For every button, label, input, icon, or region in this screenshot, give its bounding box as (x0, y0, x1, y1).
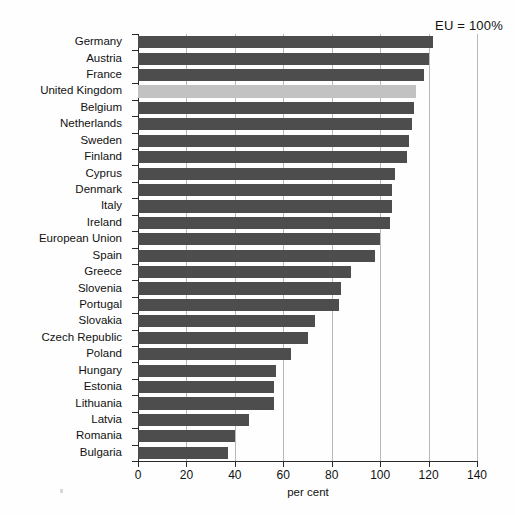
x-tick-120 (429, 462, 430, 467)
bar-row (138, 135, 477, 147)
y-label-finland: Finland (84, 151, 122, 163)
bar-row (138, 184, 477, 196)
bar-greece (138, 266, 351, 278)
y-label-hungary: Hungary (79, 365, 122, 377)
x-tick-140 (477, 462, 478, 467)
y-label-poland: Poland (86, 348, 122, 360)
y-label-slovakia: Slovakia (79, 315, 122, 327)
y-label-romania: Romania (76, 430, 122, 442)
bar-row (138, 266, 477, 278)
bar-lithuania (138, 397, 274, 409)
bar-slovenia (138, 282, 341, 294)
y-label-slovenia: Slovenia (78, 283, 122, 295)
y-label-bulgaria: Bulgaria (80, 447, 122, 459)
bar-row (138, 69, 477, 81)
y-label-germany: Germany (75, 36, 122, 48)
bar-czech-republic (138, 332, 308, 344)
y-label-spain: Spain (93, 250, 122, 262)
y-label-lithuania: Lithuania (75, 398, 122, 410)
y-label-ireland: Ireland (87, 217, 122, 229)
bar-row (138, 53, 477, 65)
x-tick-label-120: 120 (419, 469, 439, 481)
gridline-140 (477, 34, 478, 461)
bar-cyprus (138, 168, 395, 180)
bar-poland (138, 348, 291, 360)
bar-row (138, 348, 477, 360)
bar-ireland (138, 217, 390, 229)
y-label-greece: Greece (84, 266, 122, 278)
bar-france (138, 69, 424, 81)
bar-bulgaria (138, 447, 228, 459)
x-tick-100 (380, 462, 381, 467)
bar-united-kingdom (138, 85, 416, 97)
bar-netherlands (138, 118, 412, 130)
bar-row (138, 233, 477, 245)
bar-row (138, 414, 477, 426)
plot-area (138, 34, 477, 461)
x-axis-tick-labels: 020406080100120140 (138, 469, 478, 485)
bar-row (138, 250, 477, 262)
x-tick-40 (235, 462, 236, 467)
bar-european-union (138, 233, 380, 245)
bar-denmark (138, 184, 392, 196)
bar-row (138, 430, 477, 442)
bar-row (138, 200, 477, 212)
bar-rows (138, 34, 477, 461)
x-tick-label-20: 20 (180, 469, 193, 481)
bar-hungary (138, 365, 276, 377)
y-label-portugal: Portugal (79, 299, 122, 311)
y-label-france: France (86, 69, 122, 81)
y-label-belgium: Belgium (80, 102, 122, 114)
bar-row (138, 397, 477, 409)
y-label-czech-republic: Czech Republic (41, 332, 122, 344)
bar-finland (138, 151, 407, 163)
y-label-netherlands: Netherlands (60, 118, 122, 130)
bar-belgium (138, 102, 414, 114)
bar-austria (138, 53, 429, 65)
y-label-european-union: European Union (39, 233, 122, 245)
y-label-united-kingdom: United Kingdom (40, 85, 122, 97)
bar-row (138, 447, 477, 459)
x-tick-60 (283, 462, 284, 467)
bar-portugal (138, 299, 339, 311)
x-tick-label-40: 40 (228, 469, 241, 481)
x-tick-0 (138, 462, 139, 467)
bar-germany (138, 36, 433, 48)
bar-row (138, 85, 477, 97)
bar-row (138, 315, 477, 327)
x-tick-20 (186, 462, 187, 467)
y-label-austria: Austria (86, 53, 122, 65)
bar-row (138, 332, 477, 344)
bar-row (138, 299, 477, 311)
y-label-cyprus: Cyprus (86, 168, 122, 180)
y-label-denmark: Denmark (75, 184, 122, 196)
bar-italy (138, 200, 392, 212)
x-tick-label-80: 80 (325, 469, 338, 481)
eu-reference-annotation: EU = 100% (435, 18, 503, 33)
bar-row (138, 282, 477, 294)
bar-spain (138, 250, 375, 262)
bar-row (138, 102, 477, 114)
bar-latvia (138, 414, 249, 426)
x-axis-title: per cent (138, 486, 478, 498)
bar-row (138, 118, 477, 130)
bar-row (138, 217, 477, 229)
y-label-estonia: Estonia (84, 381, 122, 393)
bar-row (138, 151, 477, 163)
bar-chart: EU = 100% GermanyAustriaFranceUnited Kin… (0, 0, 515, 515)
bar-estonia (138, 381, 274, 393)
y-label-italy: Italy (101, 200, 122, 212)
x-tick-80 (332, 462, 333, 467)
bar-row (138, 381, 477, 393)
bar-row (138, 36, 477, 48)
bar-row (138, 365, 477, 377)
scan-artifact (60, 489, 63, 493)
y-label-latvia: Latvia (91, 414, 122, 426)
y-label-sweden: Sweden (80, 135, 122, 147)
bar-slovakia (138, 315, 315, 327)
y-axis-category-labels: GermanyAustriaFranceUnited KingdomBelgiu… (0, 34, 132, 461)
x-tick-label-100: 100 (370, 469, 390, 481)
x-tick-label-140: 140 (467, 469, 487, 481)
x-tick-label-0: 0 (135, 469, 142, 481)
bar-romania (138, 430, 235, 442)
